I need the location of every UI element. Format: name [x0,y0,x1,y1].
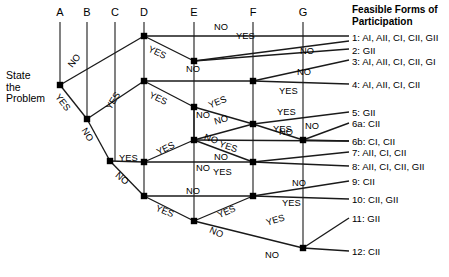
branch-label-yes-nG1-out6a: YES [273,124,292,134]
decision-node-nC1[interactable] [107,158,113,164]
root-label-line: State [6,70,58,82]
decision-node-nF2[interactable] [250,121,256,127]
branch-label-no-nF3-out7: NO [214,152,228,162]
legend-title-line: Feasible Forms of [352,4,448,16]
decision-node-nB[interactable] [84,116,90,122]
decision-node-nD3[interactable] [141,159,147,165]
decision-node-nF3[interactable] [250,159,256,165]
outcome-7: 7: AII, CI, CII [352,148,406,158]
branch-nF2-out5 [253,112,349,124]
branch-nF3-out7 [253,152,349,162]
decision-node-nG2[interactable] [300,245,306,251]
outcome-6a: 6a: CII [352,119,380,129]
outcome-8: 8: AII, CI, CII, GII [352,162,425,172]
branch-nG2-out12 [303,248,349,251]
column-header-F: F [243,6,263,18]
branch-label-no-nD3-nF3: NO [196,163,210,173]
decision-node-nD4[interactable] [141,193,147,199]
column-header-D: D [134,6,154,18]
branch-label-no-nE1-out2: NO [186,64,200,74]
outcome-11: 11: GII [352,214,380,224]
branch-label-yes-nE1-out1: YES [236,31,255,41]
branch-label-no-nG2-out12: NO [265,250,279,260]
branch-label-no-nD2-nF1: NO [300,46,314,56]
decision-node-nG1[interactable] [300,137,306,143]
branch-label-yes-nF1-out4: YES [279,86,298,96]
outcome-5: 5: GII [352,108,375,118]
column-header-C: C [105,6,125,18]
branch-nG2-out11 [303,218,349,248]
root-label: StatetheProblem [6,70,58,105]
branch-nF3-out8 [253,162,349,166]
outcome-2: 2: GII [352,46,375,56]
column-header-B: B [77,6,97,18]
column-header-E: E [184,6,204,18]
outcome-3: 3: AI, AII, CI, CII, GI [352,57,436,67]
decision-node-nE4[interactable] [191,218,197,224]
outcome-9: 9: CII [352,177,375,187]
root-label-line: Problem [6,93,58,105]
branch-label-yes-nF2-out5: YES [277,107,296,117]
branch-label-no-nD4-nF4: NO [186,186,200,196]
branch-nF4-out10 [253,196,349,199]
branch-label-no-nF1-out3: NO [297,67,311,77]
decision-node-nF4[interactable] [250,193,256,199]
branch-label-yes-nF4-out10: YES [282,198,301,208]
outcome-6b: 6b: CI, CII [352,137,395,147]
decision-node-nF1[interactable] [250,78,256,84]
branch-label-no-nG1-out6b: NO [305,121,319,131]
branch-label-no-nD1-out1: NO [214,22,228,32]
decision-tree-diagram: ABCDEFG StatetheProblem Feasible Forms o… [0,0,449,277]
branch-label-no-nE2-nF2b: NO [196,110,210,120]
branch-label-no-nF4-out9: NO [292,178,306,188]
branch-label-yes-nF3-out8: YES [213,167,232,177]
decision-node-nE3[interactable] [191,137,197,143]
decision-node-nD1[interactable] [141,33,147,39]
outcome-1: 1: AI, AII, CI, CII, GII [352,33,438,43]
column-header-A: A [50,6,70,18]
outcome-10: 10: CII, GII [352,195,398,205]
decision-node-nD2[interactable] [141,78,147,84]
branch-label-yes-nC1-nD3: YES [119,153,138,163]
branch-nF1-out4 [253,81,349,84]
outcome-12: 12: CII [352,247,380,257]
legend-title: Feasible Forms ofParticipation [352,4,448,27]
column-header-G: G [293,6,313,18]
branch-nE3-nF2 [194,124,253,140]
outcome-4: 4: AI, AII, CI, CII [352,80,420,90]
legend-title-line: Participation [352,16,448,28]
